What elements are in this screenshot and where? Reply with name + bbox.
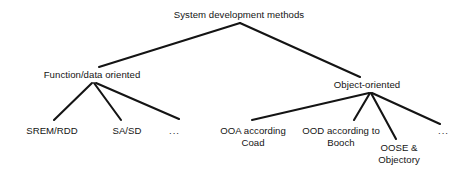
edge-root-to-object-oriented	[240, 23, 360, 77]
node-ooa-according-coad-line2: Coad	[214, 137, 292, 149]
node-ooa-according-coad-line1: OOA according	[220, 125, 286, 136]
edge-function-data-to-ellipsis-left	[96, 83, 179, 119]
edge-function-data-to-srem-rdd	[54, 83, 92, 120]
edge-function-data-to-sa-sd	[94, 83, 121, 120]
node-oose-objectory-line1: OOSE &	[380, 142, 417, 153]
node-ellipsis-right: ...	[438, 125, 449, 136]
node-ellipsis-left: ...	[169, 125, 180, 136]
node-system-development-methods: System development methods	[168, 9, 310, 21]
node-ooa-according-coad: OOA according Coad	[214, 125, 292, 148]
node-sa-sd: SA/SD	[108, 125, 146, 137]
diagram-canvas: System development methods Function/data…	[0, 0, 452, 177]
edge-object-oriented-to-ellipsis-right	[372, 93, 440, 124]
node-srem-rdd: SREM/RDD	[20, 125, 84, 137]
node-oose-objectory: OOSE & Objectory	[370, 142, 428, 165]
node-function-data-oriented: Function/data oriented	[34, 69, 150, 81]
node-object-oriented: Object-oriented	[327, 79, 407, 91]
node-ood-according-to-booch-line1: OOD according to	[302, 125, 380, 136]
edge-object-oriented-to-ood-booch	[354, 93, 370, 120]
node-oose-objectory-line2: Objectory	[370, 154, 428, 166]
edge-object-oriented-to-ooa-coad	[252, 93, 369, 120]
edge-root-to-function-data	[99, 23, 240, 67]
